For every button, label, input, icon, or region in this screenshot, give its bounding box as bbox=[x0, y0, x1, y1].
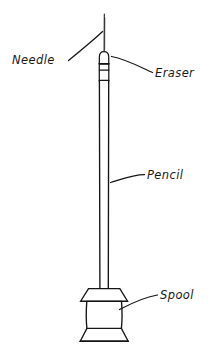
spool-top-flange bbox=[81, 289, 128, 302]
spool-bottom-flange bbox=[80, 328, 128, 341]
spool-part bbox=[80, 289, 128, 342]
eraser-cap-outline bbox=[99, 52, 109, 64]
spool-barrel bbox=[86, 301, 122, 328]
leader-lines bbox=[69, 32, 158, 310]
label-pencil: Pencil bbox=[147, 168, 184, 182]
leader-line-pencil bbox=[111, 175, 145, 183]
eraser-part bbox=[99, 52, 109, 81]
label-eraser: Eraser bbox=[155, 66, 195, 80]
pencil-spool-diagram: Needle Eraser Pencil Spool bbox=[0, 0, 213, 352]
diagram-page: Needle Eraser Pencil Spool bbox=[0, 0, 213, 352]
pencil-left-edge bbox=[99, 81, 100, 289]
leader-line-eraser bbox=[112, 57, 153, 73]
needle-part bbox=[104, 14, 105, 53]
label-spool: Spool bbox=[160, 288, 194, 302]
label-needle: Needle bbox=[12, 53, 55, 67]
leader-line-needle bbox=[69, 32, 103, 61]
pencil-part bbox=[99, 81, 108, 289]
